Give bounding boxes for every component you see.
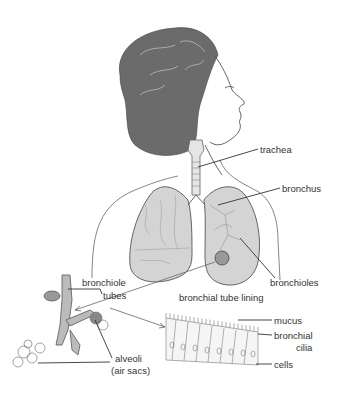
label-bronchiole-tubes-line2: tubes [103, 290, 126, 301]
label-bronchiole-tubes-line1: bronchiole [82, 277, 126, 288]
lining-cells [166, 318, 258, 365]
label-alveoli-line1: alveoli [115, 353, 142, 364]
label-alveoli-line2: (air sacs) [111, 365, 150, 376]
label-bronchial-cilia-line2: cilia [296, 342, 312, 353]
label-bronchial-tube-lining: bronchial tube lining [179, 292, 264, 303]
magnified-region [215, 251, 229, 265]
label-bronchioles: bronchioles [270, 277, 319, 288]
label-cells: cells [274, 359, 293, 370]
label-mucus: mucus [274, 315, 302, 326]
label-trachea: trachea [260, 144, 292, 155]
face-profile [205, 55, 244, 175]
label-bronchial-cilia-line1: bronchial [274, 330, 313, 341]
label-bronchus: bronchus [282, 183, 321, 194]
trachea-shape [188, 140, 204, 195]
